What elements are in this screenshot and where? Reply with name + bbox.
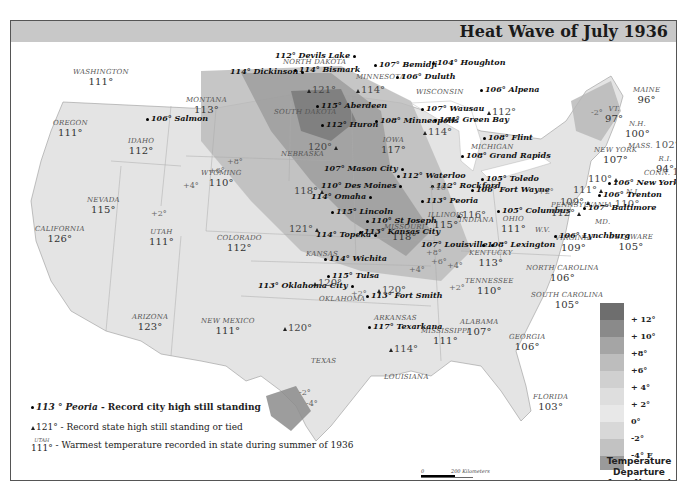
state-record: 121° [289,223,320,234]
state-label-colorado: COLORADO112° [217,234,262,253]
departure-label: +8° [227,157,243,166]
city-dot-icon [351,285,354,288]
state-label-maryland: MD. [595,218,610,226]
state-label-washington: WASHINGTON111° [73,68,129,87]
city-flint: 108° Flint [483,132,533,142]
triangle-icon [487,111,491,115]
state-record: 111° [573,184,604,195]
legend-title: Temperature Departurefrom Normal [589,456,677,481]
map-frame: Heat Wave of July 1936 WASHINGTON111° OR… [10,20,677,481]
city-wausau: 107° Wausau [421,103,484,113]
state-record: 114° [356,84,385,95]
triangle-icon [457,214,461,218]
legend-swatch: 0° [600,405,624,422]
city-dot-icon [432,62,435,65]
map-title: Heat Wave of July 1936 [460,21,668,42]
city-dot-icon [471,189,474,192]
city-dot-icon [369,196,372,199]
key-state-record: 121° - Record state high still standing … [31,422,243,432]
state-record: 114° [423,126,452,137]
city-dot-icon [482,244,485,247]
title-bar: Heat Wave of July 1936 [11,21,676,42]
legend-title-line2: from Normal [607,478,671,481]
departure-label: +2° [449,283,465,292]
city-lexington: 108° Lexington [482,239,555,249]
city-dot-icon [399,185,402,188]
state-label-vermont: VT.97° [605,105,623,124]
city-dot-icon [294,69,297,72]
triangle-icon [283,327,287,331]
city-dot-icon [554,235,557,238]
city-bemidji: 107° Bemidji [374,59,437,69]
city-devils-lake: 112° Devils Lake [275,50,358,60]
triangle-icon [577,212,581,216]
legend-swatch: +6° [600,354,624,371]
departure-label: -4° [306,399,318,408]
triangle-icon [389,348,393,352]
city-toledo: 105° Toledo [481,173,539,183]
scale-bar: 0 200 Kilometers 0 200 Miles [421,468,501,481]
city-peoria: 113° Peoria [421,195,478,205]
city-wichita: 114° Wichita [324,253,387,263]
key-state-warmest: UTAH 111° - Warmest temperature recorded… [31,437,353,453]
city-dot-icon [480,89,483,92]
state-label-florida: FLORIDA103° [533,393,568,412]
city-dot-icon [421,108,424,111]
state-record: 120° [313,277,342,288]
city-grand-rapids: 108° Grand Rapids [461,150,551,160]
legend-swatch: + 10° [600,320,624,337]
departure-label: +2° [351,289,367,298]
city-dot-icon [324,258,327,261]
state-record: 118° [294,185,325,196]
departure-label: +2° [538,187,554,196]
city-waterloo: 112° Waterloo [397,170,466,180]
triangle-icon [377,289,381,293]
city-trenton: 106° Trenton [598,189,662,199]
city-dot-icon [316,105,319,108]
state-label-south-carolina: SOUTH CAROLINA105° [531,291,603,310]
triangle-icon [334,146,338,150]
city-dot-icon [353,55,356,58]
state-label-maine: MAINE96° [633,86,660,105]
city-dot-icon [481,178,484,181]
departure-label: +6° [209,166,225,175]
departure-label: +4° [183,181,199,190]
triangle-icon [315,228,319,232]
departure-legend: + 12° + 10° +8° +6° + 4° + 2° 0° -2° -4°… [600,303,624,470]
city-lynchburg: 106° Lynchburg [554,230,630,240]
city-dot-icon [31,406,34,409]
triangle-icon [307,89,311,93]
departure-label: +2° [151,209,167,218]
city-aberdeen: 115° Aberdeen [316,100,387,110]
city-dot-icon [146,118,149,121]
state-label-oregon: OREGON111° [53,119,88,138]
state-label-rhode-island: R.I.94° [656,155,674,174]
legend-swatch: +8° [600,337,624,354]
city-dot-icon [421,200,424,203]
legend-swatch: + 4° [600,371,624,388]
state-record: 120° [308,141,339,152]
departure-label: +8° [426,248,442,257]
city-dot-icon [331,211,334,214]
state-label-massachusetts: MASS. 102° [628,139,677,150]
city-mason-city: 107° Mason City [324,163,406,173]
legend-label: + 10° [631,331,656,341]
triangle-icon [356,89,360,93]
departure-label: +10° [429,183,450,192]
city-huron: 112° Huron [321,119,378,129]
state-record: 121° [307,84,336,95]
state-label-california: CALIFORNIA126° [35,225,85,244]
state-label-idaho: IDAHO112° [128,137,154,156]
triangle-icon [423,131,427,135]
state-label-new-hampshire: N.H.100° [625,120,650,139]
legend-label: 0° [631,416,641,426]
city-dot-icon [374,64,377,67]
city-alpena: 106° Alpena [480,84,539,94]
city-salmon: 106° Salmon [146,113,208,123]
triangle-icon [599,189,603,193]
state-record: 120° [283,322,312,333]
legend-swatch: + 12° [600,303,624,320]
city-texarkana: 117° Texarkana [368,321,443,331]
city-des-moines: 110° Des Moines [321,180,404,190]
city-houghton: 104° Houghton [432,57,505,67]
